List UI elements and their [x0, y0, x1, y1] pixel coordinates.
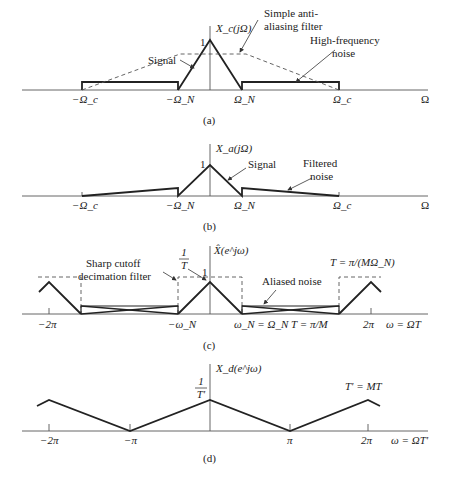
- replica-left: [39, 282, 81, 314]
- noise-right: [242, 82, 339, 90]
- leader-noise: [288, 178, 312, 190]
- annotation-signal: Signal: [148, 54, 176, 66]
- noise-left: [82, 82, 178, 90]
- y-label: X_a(jΩ): [215, 142, 252, 155]
- annotation-aliased: Aliased noise: [262, 275, 322, 287]
- annotation-noise-2: noise: [310, 170, 333, 182]
- tick-omega-n: Ω_N: [234, 93, 255, 105]
- annotation-filter-2: aliasing filter: [264, 20, 323, 32]
- x-label: Ω: [421, 93, 429, 105]
- panel-d: X_d(e^jω) 1 T' T' = MT −2π −π π 2π ω = Ω…: [22, 362, 429, 465]
- x-label: ω = ΩT: [386, 318, 422, 330]
- caption: (b): [203, 220, 216, 233]
- peak-one: 1: [202, 266, 208, 278]
- y-label: X_c(jΩ): [215, 22, 252, 35]
- tick-neg-omega-c: −Ω_c: [72, 199, 98, 211]
- peak-label: 1: [200, 36, 206, 48]
- filtered-spectrum: [82, 165, 339, 196]
- annotation-filter-1: Simple anti-: [264, 7, 318, 19]
- relation: T' = MT: [345, 380, 383, 392]
- tick-omega-c: Ω_c: [333, 93, 351, 105]
- relation: T = π/(MΩ_N): [330, 256, 395, 269]
- tick-neg-omega-n: −Ω_N: [166, 199, 195, 211]
- peak-den: T: [181, 259, 188, 271]
- tick-omega-n: Ω_N: [234, 199, 255, 211]
- peak-num: 1: [181, 246, 187, 258]
- annotation-filter-1: Sharp cutoff: [86, 257, 141, 269]
- annotation-noise-1: High-frequency: [310, 34, 380, 46]
- caption: (c): [203, 339, 216, 352]
- replica-right: [339, 282, 381, 314]
- annotation-filter-2: decimation filter: [78, 270, 151, 282]
- panel-c: X̂(e^jω) 1 T 1 T = π/(MΩ_N) Sharp cutoff…: [22, 244, 428, 352]
- y-label: X_d(e^jω): [215, 362, 262, 375]
- tick-pi: π: [287, 434, 293, 446]
- tick-neg-omega-c: −Ω_c: [72, 93, 98, 105]
- leader-signal: [228, 168, 246, 180]
- tick-neg-omega-n: −Ω_N: [166, 93, 195, 105]
- figure-canvas: X_c(jΩ) Simple anti- aliasing filter Hig…: [0, 0, 454, 480]
- x-label: Ω: [421, 199, 429, 211]
- annotation-noise-2: noise: [332, 47, 355, 59]
- decimated-spectrum: [37, 400, 380, 431]
- annotation-signal: Signal: [248, 158, 276, 170]
- annotation-noise-1: Filtered: [303, 157, 338, 169]
- leader-filter: [163, 272, 176, 280]
- tick-neg-2pi: −2π: [38, 318, 57, 330]
- antialiasing-filter: [82, 54, 339, 90]
- tick-omega-c: Ω_c: [333, 199, 351, 211]
- y-label: X̂(e^jω): [213, 244, 249, 257]
- tick-neg-2pi: −2π: [40, 434, 59, 446]
- leader-aliased-noise: [264, 290, 276, 304]
- x-label: ω = ΩT': [391, 434, 429, 446]
- panel-a: X_c(jΩ) Simple anti- aliasing filter Hig…: [22, 7, 429, 127]
- tick-omega-n: ω_N = Ω_N T = π/M: [234, 318, 328, 330]
- panel-b: X_a(jΩ) 1 Signal Filtered noise −Ω_c −Ω_…: [22, 142, 429, 233]
- tick-2pi: 2π: [361, 434, 373, 446]
- caption: (d): [203, 452, 216, 465]
- leader-noise: [296, 50, 335, 82]
- tick-neg-pi: −π: [124, 434, 137, 446]
- leader-signal: [180, 60, 194, 68]
- tick-2pi: 2π: [363, 318, 375, 330]
- peak-num: 1: [198, 375, 204, 387]
- peak-den: T': [197, 388, 206, 400]
- tick-neg-omega-n: −ω_N: [168, 318, 197, 330]
- caption: (a): [203, 114, 216, 127]
- peak-label: 1: [200, 158, 206, 170]
